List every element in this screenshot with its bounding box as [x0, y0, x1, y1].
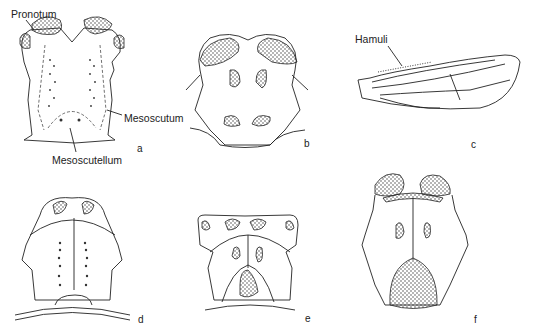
panel-f: f — [362, 174, 477, 325]
label-hamuli: Hamuli — [355, 33, 388, 45]
panel-b: b — [186, 34, 310, 149]
figure-canvas: Pronotum Mesoscutum Mesoscutellum a b Ha… — [0, 0, 533, 332]
label-mesoscutellum: Mesoscutellum — [52, 154, 122, 166]
panel-e: e — [198, 215, 311, 324]
panel-d: d — [15, 198, 144, 325]
panel-c: Hamuli c — [355, 33, 520, 150]
label-pronotum: Pronotum — [11, 8, 57, 20]
panel-label-d: d — [138, 314, 144, 325]
panel-label-e: e — [305, 313, 311, 324]
panel-label-f: f — [474, 314, 477, 325]
panel-a: Pronotum Mesoscutum Mesoscutellum a — [11, 8, 184, 166]
label-mesoscutum: Mesoscutum — [124, 112, 184, 124]
panel-label-c: c — [471, 139, 476, 150]
panel-label-a: a — [137, 143, 143, 154]
panel-label-b: b — [304, 138, 310, 149]
